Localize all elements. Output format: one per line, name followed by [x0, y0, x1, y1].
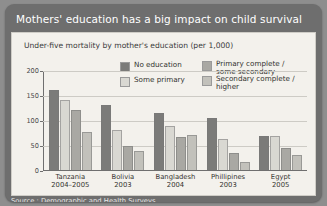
- x-axis-labels: Tanzania2004–2005Bolivia2003Bangladesh20…: [44, 173, 307, 190]
- bar-group: [97, 71, 150, 170]
- page-title: Mothers' education has a big impact on c…: [16, 13, 302, 25]
- bar: [187, 135, 197, 171]
- bar-group: [202, 71, 255, 170]
- bar: [82, 132, 92, 171]
- bar: [270, 136, 280, 170]
- y-axis-tick-mark: [40, 96, 43, 97]
- y-axis-tick-label: 100: [26, 117, 39, 125]
- bar-group: [149, 71, 202, 170]
- bar: [71, 110, 81, 171]
- x-axis-category-label: Egypt2005: [254, 173, 307, 190]
- bar: [60, 100, 70, 171]
- bar: [165, 126, 175, 170]
- x-axis: [43, 170, 307, 171]
- bar: [281, 148, 291, 170]
- chart-subtitle: Under-five mortality by mother's educati…: [24, 41, 233, 50]
- bar-group: [44, 71, 97, 170]
- legend-label: No education: [134, 61, 182, 69]
- bar: [259, 136, 269, 170]
- y-axis-tick-mark: [40, 171, 43, 172]
- chart-card: Under-five mortality by mother's educati…: [11, 32, 316, 196]
- bar: [229, 153, 239, 171]
- bar-groups: [44, 71, 307, 170]
- source-note: Source : Demographic and Health Surveys: [11, 197, 155, 202]
- bar: [292, 155, 302, 170]
- bar: [101, 105, 111, 170]
- chart-panel: Mothers' education has a big impact on c…: [5, 4, 322, 202]
- y-axis-tick-mark: [40, 121, 43, 122]
- bar: [112, 130, 122, 171]
- x-axis-category-label: Bangladesh2004: [149, 173, 202, 190]
- bar: [176, 137, 186, 171]
- plot-area: 050100150200: [43, 71, 307, 171]
- legend-swatch-icon: [202, 61, 212, 71]
- y-axis-tick-label: 200: [26, 67, 39, 75]
- x-axis-category-label: Phillipines2003: [202, 173, 255, 190]
- bar: [240, 162, 250, 171]
- y-axis-tick-label: 50: [31, 142, 39, 150]
- bar: [207, 118, 217, 171]
- bar: [123, 146, 133, 171]
- bar: [218, 139, 228, 170]
- y-axis-tick-mark: [40, 146, 43, 147]
- chart-title-bar: Mothers' education has a big impact on c…: [5, 4, 322, 33]
- y-axis-tick-label: 150: [26, 92, 39, 100]
- bar-group: [254, 71, 307, 170]
- bar: [134, 151, 144, 170]
- x-axis-category-label: Bolivia2003: [97, 173, 150, 190]
- chart-figure: Mothers' education has a big impact on c…: [0, 0, 327, 206]
- bar: [49, 90, 59, 170]
- y-axis-tick-mark: [40, 71, 43, 72]
- x-axis-category-label: Tanzania2004–2005: [44, 173, 97, 190]
- bar: [154, 113, 164, 171]
- y-axis-tick-label: 0: [35, 167, 39, 175]
